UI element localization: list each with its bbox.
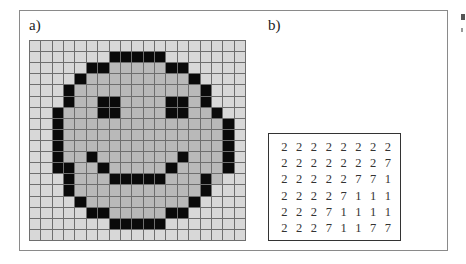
grid-cell [30,185,40,195]
grid-cell [132,185,142,195]
grid-cell [235,63,245,73]
grid-cell [201,119,211,129]
grid-cell [75,230,85,240]
grid-cell [201,219,211,229]
grid-cell [98,108,108,118]
grid-cell [64,141,74,151]
smiley-pixel-grid [29,40,246,241]
grid-cell [189,185,199,195]
grid-cell [166,230,176,240]
grid-cell [41,130,51,140]
grid-cell [189,74,199,84]
grid-cell [53,208,63,218]
grid-cell [144,152,154,162]
grid-cell [189,219,199,229]
grid-cell [30,85,40,95]
grid-cell [132,141,142,151]
matrix-value: 1 [366,205,381,220]
grid-cell [201,208,211,218]
grid-cell [110,230,120,240]
matrix-value: 2 [307,156,322,171]
grid-cell [53,230,63,240]
grid-cell [87,52,97,62]
grid-cell [189,52,199,62]
grid-cell [201,141,211,151]
matrix-value: 1 [351,221,366,236]
grid-cell [87,63,97,73]
matrix-value: 2 [321,172,336,187]
grid-cell [144,230,154,240]
grid-cell [121,185,131,195]
matrix-value: 2 [277,140,292,155]
matrix-value: 2 [292,140,307,155]
grid-cell [155,197,165,207]
grid-cell [87,119,97,129]
grid-cell [53,174,63,184]
grid-cell [212,119,222,129]
grid-cell [121,41,131,51]
grid-cell [41,119,51,129]
grid-cell [212,130,222,140]
grid-cell [30,230,40,240]
grid-cell [235,208,245,218]
grid-cell [212,185,222,195]
grid-cell [87,85,97,95]
grid-cell [87,208,97,218]
matrix-value: 1 [381,172,396,187]
grid-cell [155,63,165,73]
grid-cell [235,219,245,229]
grid-cell [132,52,142,62]
grid-cell [223,230,233,240]
grid-cell [189,97,199,107]
grid-cell [201,41,211,51]
grid-cell [121,108,131,118]
grid-cell [178,108,188,118]
grid-cell [212,174,222,184]
grid-cell [87,163,97,173]
matrix-row: 22222222 [277,140,395,155]
matrix-row: 22271111 [277,205,395,220]
grid-cell [132,219,142,229]
grid-cell [87,230,97,240]
grid-cell [144,219,154,229]
grid-cell [64,152,74,162]
grid-cell [212,108,222,118]
grid-cell [235,130,245,140]
grid-cell [64,208,74,218]
grid-cell [110,163,120,173]
grid-cell [53,141,63,151]
grid-cell [155,97,165,107]
matrix-value: 2 [307,140,322,155]
grid-cell [223,219,233,229]
grid-cell [121,119,131,129]
grid-cell [166,163,176,173]
grid-cell [110,41,120,51]
grid-cell [201,230,211,240]
grid-cell [189,141,199,151]
matrix-value: 2 [277,189,292,204]
grid-cell [155,85,165,95]
grid-cell [53,119,63,129]
grid-cell [30,41,40,51]
matrix-value: 2 [307,205,322,220]
grid-cell [41,63,51,73]
grid-cell [132,152,142,162]
grid-cell [223,52,233,62]
grid-cell [75,163,85,173]
grid-cell [155,152,165,162]
grid-cell [212,63,222,73]
grid-cell [98,97,108,107]
grid-cell [189,208,199,218]
matrix-value: 2 [292,156,307,171]
grid-cell [64,74,74,84]
grid-cell [166,197,176,207]
grid-cell [166,74,176,84]
grid-cell [235,197,245,207]
grid-cell [144,208,154,218]
grid-cell [235,163,245,173]
cropped-text-mark [461,28,463,32]
grid-cell [98,185,108,195]
grid-cell [98,174,108,184]
grid-cell [132,197,142,207]
matrix-row: 22222227 [277,156,395,171]
